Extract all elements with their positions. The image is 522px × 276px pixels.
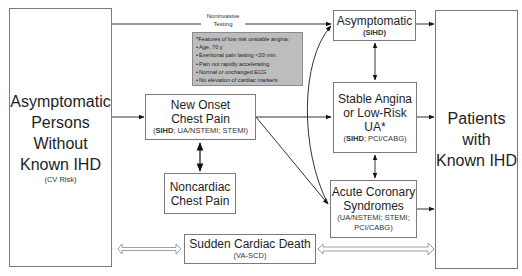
line: New Onset <box>171 98 230 112</box>
scd-title: Sudden Cardiac Death <box>189 237 310 251</box>
line: Without <box>10 133 110 154</box>
sihd-sub: (SIHD) <box>363 28 386 38</box>
noninvasive-label: Noninvasive <box>201 12 245 20</box>
line: Chest Pain <box>171 194 230 208</box>
line: Chest Pain <box>171 112 230 126</box>
line: Patients <box>448 108 506 129</box>
cv-risk-label: (CV Risk) <box>44 175 76 185</box>
line: Known IHD <box>436 150 517 171</box>
line: Syndromes <box>343 199 404 213</box>
acs-sub-1: (UA/NSTEMI; STEMI; <box>337 213 410 223</box>
sudden-cardiac-death-box: Sudden Cardiac Death (VA-SCD) <box>184 234 316 264</box>
asymptomatic-persons-title: Asymptomatic Persons Without Known IHD <box>10 91 110 175</box>
new-onset-sub: (SIHD; UA/NSTEMI; STEMI) <box>153 126 248 136</box>
note-item: Normal or unchanged ECG <box>196 68 299 76</box>
line: Acute Coronary <box>332 185 415 199</box>
new-onset-chest-pain-box: New Onset Chest Pain (SIHD; UA/NSTEMI; S… <box>145 94 256 140</box>
sihd-bold: SIHD <box>155 126 173 135</box>
line: or Low-Risk <box>343 106 406 120</box>
note-item: Exertional pain lasting <20 min. <box>196 51 299 59</box>
note-title: *Features of low risk unstable angina: <box>196 35 299 43</box>
acute-coronary-syndromes-box: Acute Coronary Syndromes (UA/NSTEMI; STE… <box>330 180 417 238</box>
noninvasive-testing-label: Noninvasive Testing <box>201 12 245 28</box>
noncardiac-chest-pain-box: Noncardiac Chest Pain <box>164 173 236 214</box>
acs-sub-2: PCI/CABG) <box>354 223 392 233</box>
sihd-bold: SIHD <box>346 134 364 143</box>
stable-angina-sub: (SIHD; PCI/CABG) <box>344 134 407 144</box>
low-risk-ua-features-note: *Features of low risk unstable angina: A… <box>192 32 303 86</box>
sub-rest: ; UA/NSTEMI; STEMI) <box>173 126 248 135</box>
line: UA* <box>364 120 385 134</box>
line: Stable Angina <box>338 92 412 106</box>
patients-known-ihd-box: Patients with Known IHD <box>435 10 518 269</box>
line: Known IHD <box>10 154 110 175</box>
scd-sub: (VA-SCD) <box>234 251 267 261</box>
sub-rest: ; PCI/CABG) <box>364 134 407 143</box>
asymptomatic-title: Asymptomatic <box>337 14 412 28</box>
testing-label: Testing <box>201 20 245 28</box>
line: Asymptomatic <box>10 91 110 112</box>
note-item: Pain not rapidly accelerating <box>196 60 299 68</box>
line: with <box>462 129 490 150</box>
stable-angina-box: Stable Angina or Low-Risk UA* (SIHD; PCI… <box>333 82 417 153</box>
line: Noncardiac <box>170 180 231 194</box>
asymptomatic-persons-box: Asymptomatic Persons Without Known IHD (… <box>9 8 112 267</box>
note-item: No elevation of cardiac markers <box>196 76 299 84</box>
line: Persons <box>10 112 110 133</box>
note-item: Age, 70 y <box>196 43 299 51</box>
asymptomatic-sihd-box: Asymptomatic (SIHD) <box>333 10 416 41</box>
